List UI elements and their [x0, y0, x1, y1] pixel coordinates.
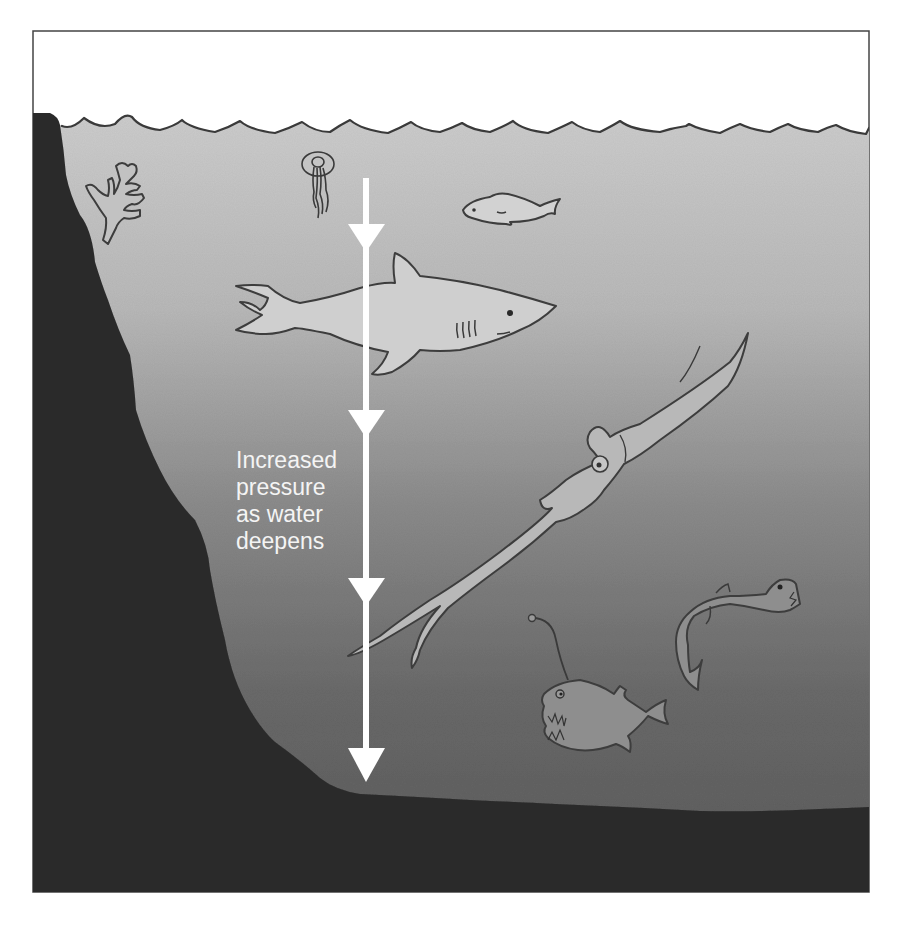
label-line-4: deepens: [236, 528, 324, 554]
label-line-1: Increased: [236, 447, 337, 473]
ocean-pressure-diagram: Increased pressure as water deepens: [0, 0, 901, 926]
label-line-3: as water: [236, 501, 323, 527]
arrow-shaft: [363, 178, 369, 756]
label-line-2: pressure: [236, 474, 325, 500]
